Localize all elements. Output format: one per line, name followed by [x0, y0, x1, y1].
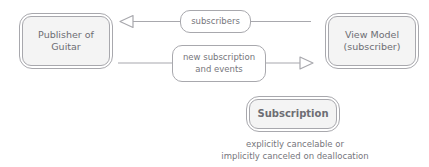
edge-label-new-subscription-text: new subscription and events [183, 52, 255, 74]
diagram-canvas: Publisher of Guitar View Model (subscrib… [0, 0, 429, 167]
node-subscription-label: Subscription [257, 108, 328, 121]
edge-label-subscribers[interactable]: subscribers [180, 10, 251, 33]
node-publisher-of-guitar[interactable]: Publisher of Guitar [22, 16, 110, 66]
arrowhead-right-icon [300, 57, 313, 69]
node-subscription[interactable]: Subscription [249, 99, 337, 129]
node-view-model-label: View Model (subscriber) [344, 29, 401, 53]
subscription-caption: explicitly cancelable or implicitly canc… [180, 139, 410, 162]
node-publisher-label: Publisher of Guitar [38, 29, 94, 53]
arrowhead-left-icon [120, 16, 133, 28]
node-view-model[interactable]: View Model (subscriber) [328, 16, 416, 66]
edge-label-new-subscription-and-events[interactable]: new subscription and events [172, 45, 266, 82]
edge-label-subscribers-text: subscribers [191, 16, 240, 27]
